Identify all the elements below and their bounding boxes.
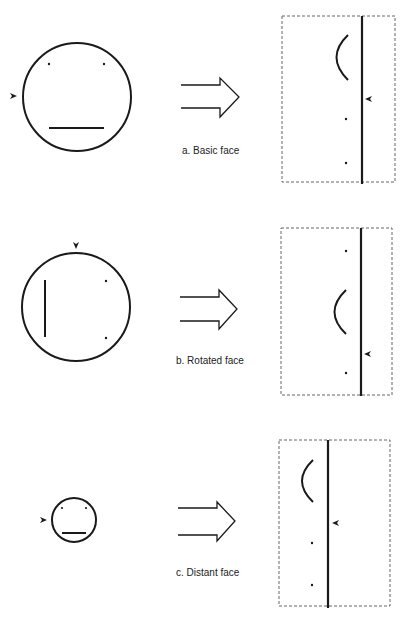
projection-a [282, 16, 395, 184]
projection-frame [282, 16, 395, 182]
marker-arrowhead-icon [364, 351, 371, 357]
face-projection-diagram: a. Basic face b. Rotated face c. Distant… [0, 0, 410, 622]
mouth-arc [302, 460, 313, 502]
eye-right [85, 507, 87, 509]
eye-bottom [105, 337, 107, 339]
eye-dot [311, 584, 313, 586]
eye-top [105, 280, 107, 282]
face-outline [22, 253, 130, 361]
marker-arrowhead-icon [40, 517, 47, 523]
eye-dot [345, 250, 347, 252]
projection-c [279, 440, 390, 608]
distant-face [40, 498, 96, 542]
marker-arrowhead-icon [10, 93, 17, 99]
panel-c [40, 440, 390, 608]
eye-left [61, 507, 63, 509]
marker-arrowhead-icon [332, 520, 339, 526]
transform-arrow-icon [178, 502, 235, 541]
mouth-arc [337, 35, 349, 80]
transform-arrow-icon [181, 78, 239, 117]
caption-basic-face: a. Basic face [182, 145, 239, 156]
caption-distant-face: c. Distant face [176, 567, 239, 578]
mouth-arc [335, 290, 347, 334]
marker-arrowhead-icon [365, 96, 372, 102]
eye-dot [345, 372, 347, 374]
diagram-canvas [0, 0, 410, 622]
panel-a [10, 16, 395, 184]
rotated-face [22, 242, 130, 361]
marker-arrowhead-icon [73, 242, 79, 249]
eye-dot [345, 118, 347, 120]
caption-rotated-face: b. Rotated face [176, 355, 244, 366]
transform-arrow-icon [180, 290, 237, 329]
eye-right [103, 63, 105, 65]
face-outline [23, 43, 131, 151]
projection-frame [281, 228, 392, 395]
eye-dot [311, 542, 313, 544]
basic-face [10, 43, 131, 151]
projection-b [281, 228, 392, 396]
eye-dot [345, 162, 347, 164]
panel-b [22, 228, 392, 396]
eye-left [48, 63, 50, 65]
face-outline [52, 498, 96, 542]
